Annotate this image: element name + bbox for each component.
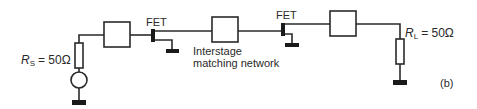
ground-icon <box>285 43 299 47</box>
wire-output-to-load <box>356 24 400 39</box>
amplifier-schematic: RS= 50Ω FET FET Interstage matching netw… <box>0 0 477 109</box>
fet2 <box>281 23 330 47</box>
input-matching-network <box>104 22 130 47</box>
fet2-gate-bar <box>281 23 285 36</box>
interstage-matching-network <box>212 17 238 42</box>
interstage-label-line2: matching network <box>193 57 280 69</box>
signal-source-icon <box>71 72 87 88</box>
ground-icon <box>72 100 86 105</box>
source-resistor <box>75 43 83 68</box>
fet1-label: FET <box>146 16 167 28</box>
source-resistor-label: RS= 50Ω <box>21 53 71 68</box>
ground-icon <box>166 49 179 53</box>
output-matching-network <box>330 11 356 36</box>
ground-icon <box>393 80 407 85</box>
fet2-label: FET <box>276 9 297 21</box>
wire-fet1-source <box>155 40 172 50</box>
load-resistor <box>396 39 404 64</box>
fet1-gate-bar <box>151 29 155 42</box>
interstage-label-line1: Interstage <box>193 45 242 57</box>
wire-source-to-input <box>79 35 104 43</box>
signal-source-branch <box>71 35 104 105</box>
wire-fet2-source <box>285 34 292 44</box>
load-resistor-label: RL= 50Ω <box>405 26 454 41</box>
panel-label: (b) <box>440 77 453 89</box>
load-branch <box>393 39 407 85</box>
